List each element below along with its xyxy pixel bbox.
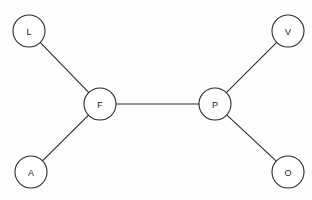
graph-node-a[interactable]: A [15,156,47,188]
graph-edge-p-v [226,42,276,92]
graph-node-label-a: A [28,168,34,178]
diagram-canvas: LVFPAO [0,0,312,200]
graph-node-label-p: P [212,100,218,110]
graph-node-v[interactable]: V [272,15,304,47]
graph-node-o[interactable]: O [272,156,304,188]
graph-node-label-v: V [285,27,291,37]
graph-edge-p-o [227,115,277,161]
graph-node-p[interactable]: P [199,88,231,120]
node-layer: LVFPAO [13,15,304,188]
graph-node-label-f: F [97,100,103,110]
graph-edge-l-f [40,42,89,92]
graph-node-label-l: L [26,27,31,37]
edge-layer [40,42,277,161]
graph-node-l[interactable]: L [13,15,45,47]
graph-node-f[interactable]: F [84,88,116,120]
graph-svg: LVFPAO [0,0,312,200]
graph-node-label-o: O [284,168,291,178]
graph-edge-a-f [42,115,88,161]
